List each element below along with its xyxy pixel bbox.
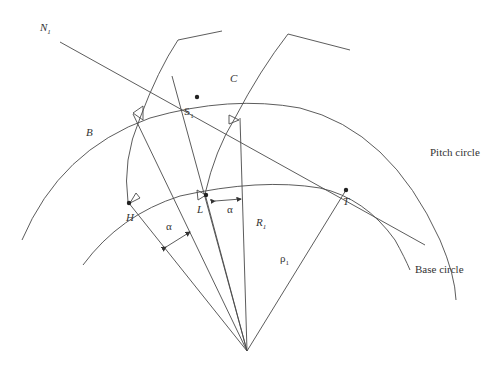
- radius-to-H-side: [128, 202, 247, 351]
- alpha-arrow-left: [166, 232, 190, 247]
- label-C: C: [230, 72, 238, 84]
- point-L: [204, 193, 208, 197]
- point-H: [127, 201, 131, 205]
- label-alpha-left: α: [166, 220, 172, 232]
- gear-diagram: N1 C S1 B L H T R1 ρ1 α α Pitch circle B…: [0, 0, 495, 366]
- label-base-circle: Base circle: [415, 263, 464, 275]
- label-L: L: [196, 203, 203, 215]
- tooth-profile-right: [205, 34, 350, 194]
- alpha-arrow-right: [215, 199, 241, 201]
- label-N1: N1: [39, 21, 51, 36]
- label-B: B: [86, 126, 93, 138]
- point-T: [344, 188, 348, 192]
- radius-line-b: [205, 194, 247, 351]
- label-alpha-right: α: [227, 203, 233, 215]
- tooth-profile-left: [127, 31, 223, 202]
- label-T: T: [343, 195, 350, 207]
- radius-rho1: [247, 190, 346, 351]
- label-S1: S1: [184, 105, 194, 120]
- radius-R1: [240, 118, 247, 351]
- label-pitch-circle: Pitch circle: [430, 146, 480, 158]
- label-R1: R1: [255, 216, 266, 231]
- base-circle-arc: [83, 184, 410, 270]
- label-rho1: ρ1: [280, 252, 290, 267]
- marker-triangle-H: [130, 193, 140, 203]
- point-S1: [195, 95, 199, 99]
- label-H: H: [125, 211, 135, 223]
